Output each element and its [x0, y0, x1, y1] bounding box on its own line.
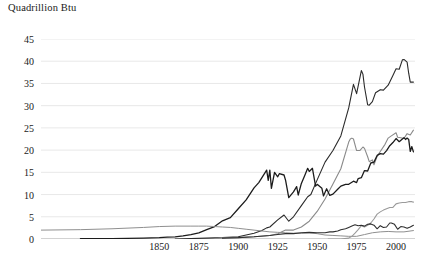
y-axis-tick-label: 40: [24, 56, 34, 67]
x-axis-tick-label: 1950: [307, 241, 327, 252]
series-line-wood: [41, 226, 413, 236]
y-axis-tick-label: 45: [24, 34, 34, 45]
series-svg: [41, 39, 415, 239]
x-axis-tick-label: 1850: [149, 241, 169, 252]
y-axis-tick-label: 15: [24, 167, 34, 178]
series-line-natural-gas: [215, 130, 414, 239]
x-axis-tick-label: 1975: [347, 241, 367, 252]
x-axis-tick-label: 2000: [386, 241, 406, 252]
y-axis-tick-label: 20: [24, 145, 34, 156]
x-axis-tick-label: 1925: [268, 241, 288, 252]
series-line-coal: [80, 138, 413, 239]
series-line-petroleum: [175, 59, 413, 239]
y-axis-tick-label: 30: [24, 100, 34, 111]
y-axis-labels: 051015202530354045: [0, 0, 34, 255]
plot-area: [41, 39, 415, 239]
y-axis-tick-label: 0: [29, 234, 34, 245]
y-axis-tick-label: 5: [29, 211, 34, 222]
y-axis-tick-label: 10: [24, 189, 34, 200]
x-axis-tick-label: 1875: [189, 241, 209, 252]
series-line-hydroelectric: [222, 223, 413, 238]
y-axis-tick-label: 35: [24, 78, 34, 89]
y-axis-tick-label: 25: [24, 122, 34, 133]
energy-consumption-chart: Quadrillion Btu 051015202530354045 18501…: [0, 0, 422, 255]
x-axis-tick-label: 1900: [228, 241, 248, 252]
